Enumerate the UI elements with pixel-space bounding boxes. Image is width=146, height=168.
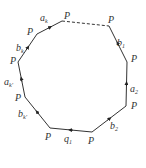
vertex-label: P xyxy=(87,135,94,146)
edge-arrow-icon xyxy=(21,79,22,82)
edge-label: bk xyxy=(16,42,24,54)
vertex-label: P xyxy=(107,14,114,25)
vertex-label: P xyxy=(130,53,137,64)
edge-arrow-icon xyxy=(37,112,39,114)
vertex-label: P xyxy=(63,10,70,21)
edge-label: ak' xyxy=(4,76,14,88)
edge-arrow-icon xyxy=(48,27,51,28)
polygon-labels: b1a2b2q1bk'ak'bkakPPPPPPPPP xyxy=(4,10,138,146)
edge-label: ak xyxy=(40,12,48,24)
edge-arrow-icon xyxy=(26,47,28,49)
edge-label: q1 xyxy=(64,133,72,145)
vertex-label: P xyxy=(26,26,33,37)
polygon-diagram: b1a2b2q1bk'ak'bkakPPPPPPPPP xyxy=(0,0,146,168)
vertex-label: P xyxy=(14,92,21,103)
edge-label: b1 xyxy=(117,37,125,49)
polygon-edges xyxy=(18,21,127,132)
edge-label: bk' xyxy=(18,108,28,120)
vertex-label: P xyxy=(9,55,16,66)
edge-0 xyxy=(62,21,109,26)
edge-label: a2 xyxy=(130,83,138,95)
edge-label: b2 xyxy=(110,120,118,132)
vertex-label: P xyxy=(44,131,51,142)
vertex-label: P xyxy=(130,100,137,111)
